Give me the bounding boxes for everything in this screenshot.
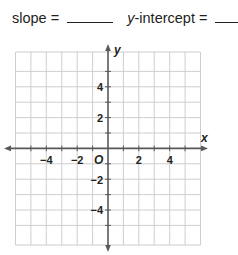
y-axis-label: y [113, 43, 122, 57]
x-axis-label: x [200, 131, 209, 145]
x-axis-left-arrow-icon [4, 146, 11, 152]
x-tick-label-neg4: −4 [40, 154, 53, 166]
x-tick-label-4: 4 [167, 154, 174, 166]
x-tick-label-2: 2 [136, 154, 142, 166]
x-tick-label-neg2: −2 [71, 154, 84, 166]
y-tick-label-4: 4 [97, 81, 104, 93]
y-axis-up-arrow-icon [105, 44, 111, 51]
x-axis [4, 146, 208, 152]
origin-label: O [94, 153, 104, 167]
y-tick-label-2: 2 [97, 112, 103, 124]
y-tick-label-neg2: −2 [90, 174, 103, 186]
coordinate-plane[interactable]: y x O −4 −2 2 4 4 2 −2 −4 [0, 0, 238, 255]
x-axis-right-arrow-icon [201, 146, 208, 152]
y-axis-down-arrow-icon [105, 245, 111, 252]
y-tick-label-neg4: −4 [90, 204, 103, 216]
